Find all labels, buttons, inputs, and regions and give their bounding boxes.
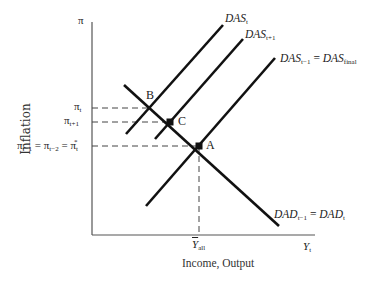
point-c-marker	[167, 119, 174, 126]
point-c-label: C	[178, 114, 186, 129]
das-t1-label: DASt+1	[245, 28, 276, 42]
y-tick-pi-t1: πt+1	[64, 114, 79, 128]
y-tick-pi-star: πt−1 = πt−2 = πt*	[17, 138, 77, 153]
das-final-label: DASt−1 = DASfinal	[280, 52, 357, 66]
point-b-label: B	[146, 88, 154, 103]
x-axis-symbol: Yt	[303, 240, 311, 254]
x-tick-y-all: Yall	[192, 238, 205, 252]
x-axis-title: Income, Output	[182, 257, 254, 269]
y-axis-symbol: π	[78, 14, 84, 26]
das-t-label: DASt	[225, 12, 248, 26]
y-tick-pi-t: πt	[74, 100, 82, 114]
das-final-curve	[146, 58, 275, 206]
point-a-label: A	[206, 138, 215, 153]
point-a-marker	[196, 143, 203, 150]
dad-label: DADt−1 = DADt	[274, 208, 345, 222]
